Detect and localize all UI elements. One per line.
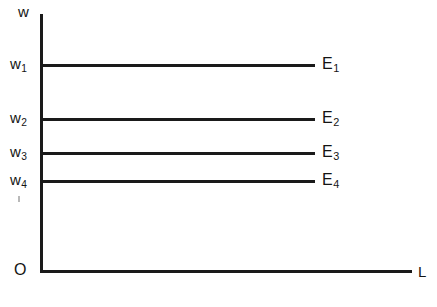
y-tick-w1-base: w — [10, 55, 21, 72]
series-label-e4: E4 — [322, 172, 339, 190]
wage-line-3 — [40, 152, 315, 155]
series-e1-subscript: 1 — [333, 62, 340, 74]
wage-line-2 — [40, 118, 315, 121]
series-e1-base: E — [322, 55, 333, 72]
series-label-e1: E1 — [322, 56, 339, 74]
y-tick-w2-base: w — [10, 109, 21, 126]
series-e4-base: E — [322, 171, 333, 188]
wage-line-4 — [40, 180, 315, 183]
series-e2-subscript: 2 — [333, 116, 340, 128]
wage-line-1 — [40, 64, 315, 67]
series-e4-subscript: 4 — [333, 178, 340, 190]
y-tick-label-w1: w1 — [10, 56, 27, 74]
y-tick-w1-subscript: 1 — [21, 63, 27, 74]
series-e3-subscript: 3 — [333, 150, 340, 162]
series-label-e2: E2 — [322, 110, 339, 128]
y-tick-w2-subscript: 2 — [21, 117, 27, 128]
scan-artifact-mark — [18, 196, 20, 202]
y-tick-w3-subscript: 3 — [21, 151, 27, 162]
y-tick-w4-subscript: 4 — [21, 179, 27, 190]
y-tick-w3-base: w — [10, 143, 21, 160]
y-tick-label-w3: w3 — [10, 144, 27, 162]
series-label-e3: E3 — [322, 144, 339, 162]
x-axis-label: L — [418, 264, 426, 279]
wage-labour-diagram: w L O w1 E1 w2 E2 w3 E3 w4 E4 — [0, 0, 437, 307]
series-e2-base: E — [322, 109, 333, 126]
y-tick-w4-base: w — [10, 171, 21, 188]
origin-label: O — [14, 262, 26, 278]
x-axis-line — [40, 270, 412, 273]
y-tick-label-w2: w2 — [10, 110, 27, 128]
series-e3-base: E — [322, 143, 333, 160]
y-tick-label-w4: w4 — [10, 172, 27, 190]
y-axis-label: w — [18, 4, 29, 19]
y-axis-line — [40, 14, 43, 273]
